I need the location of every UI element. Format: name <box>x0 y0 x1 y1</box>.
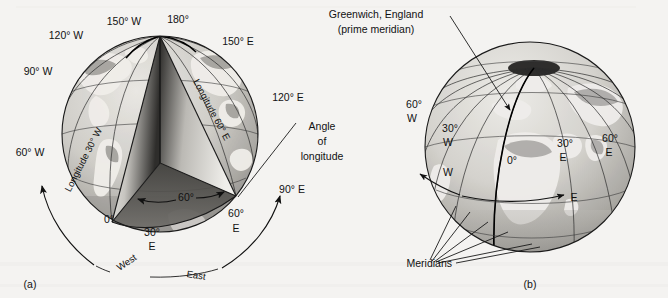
label-b-0: 0° <box>507 154 517 166</box>
label-120e: 120° E <box>272 91 304 103</box>
label-equator-60-e: E <box>232 222 239 234</box>
label-90e: 90° E <box>279 183 305 195</box>
label-b-30w-deg: 30° <box>442 122 458 134</box>
label-b-60w-dir: W <box>407 112 417 124</box>
label-90w: 90° W <box>24 65 53 77</box>
label-b-60e-deg: 60° <box>602 132 618 144</box>
label-b-60w-deg: 60° <box>406 98 422 110</box>
label-120w: 120° W <box>49 29 84 41</box>
longitude-figure: 180° 150° W 120° W 90° W 60° W 150° E 12… <box>0 0 668 298</box>
label-equator-30-deg: 30° <box>144 226 160 238</box>
callout-angle-line3: longitude <box>301 150 344 162</box>
caption-a: (a) <box>24 278 37 290</box>
label-b-30w-dir: W <box>443 136 453 148</box>
callout-greenwich-line1: Greenwich, England <box>329 8 424 20</box>
label-wedge-angle: 60° <box>178 191 194 203</box>
label-equator-30-e: E <box>148 240 155 252</box>
label-b-30e-deg: 30° <box>557 137 573 149</box>
label-b-60e-dir: E <box>605 146 612 158</box>
callout-angle-line1: Angle <box>309 120 336 132</box>
callout-greenwich-line2: (prime meridian) <box>338 23 414 35</box>
label-150e: 150° E <box>222 35 254 47</box>
caption-b: (b) <box>524 278 537 290</box>
label-b-30e-dir: E <box>559 151 566 163</box>
label-b-west-dir: W <box>443 166 453 178</box>
callout-angle-line2: of <box>318 135 327 147</box>
label-equator-0: 0° <box>104 213 114 225</box>
label-equator-60-deg: 60° <box>228 207 244 219</box>
label-150w: 150° W <box>107 15 142 27</box>
label-meridians: Meridians <box>406 257 452 269</box>
label-180: 180° <box>167 13 189 25</box>
label-b-east-dir: E <box>570 191 577 203</box>
label-60w: 60° W <box>16 146 45 158</box>
